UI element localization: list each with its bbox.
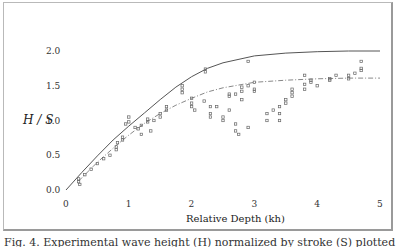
y-axis-label: H / S (22, 113, 53, 127)
data-point (266, 112, 268, 114)
data-point (181, 88, 183, 90)
fit-curve (79, 78, 380, 181)
data-point (121, 136, 123, 138)
data-point (291, 88, 293, 90)
data-point (228, 109, 230, 111)
data-point (234, 123, 236, 125)
data-point (238, 133, 240, 135)
data-point (347, 74, 349, 76)
data-point (266, 119, 268, 121)
data-point (278, 105, 280, 107)
data-point (146, 118, 148, 120)
data-point (109, 154, 111, 156)
x-tick-label: 1 (126, 199, 132, 209)
data-point (241, 98, 243, 100)
data-point (190, 105, 192, 107)
figure-caption: Fig. 4. Experimental wave height (H) nor… (4, 236, 397, 247)
y-tick-label: 2.0 (46, 46, 61, 56)
data-point (159, 116, 161, 118)
data-point (128, 116, 130, 118)
data-point (354, 72, 356, 74)
data-point (140, 133, 142, 135)
data-point (124, 123, 126, 125)
data-point (316, 85, 318, 87)
data-point (96, 162, 98, 164)
data-point (128, 121, 130, 123)
data-point (303, 88, 305, 90)
data-point (234, 93, 236, 95)
x-axis-label: Relative Depth (kh) (186, 213, 285, 224)
data-point (291, 92, 293, 94)
data-point (234, 130, 236, 132)
data-point (190, 102, 192, 104)
data-point (204, 71, 206, 73)
x-tick-label: 3 (251, 199, 257, 209)
data-point (216, 105, 218, 107)
data-point (209, 116, 211, 118)
y-tick-label: 0.0 (46, 185, 61, 195)
data-point (335, 74, 337, 76)
data-point (165, 105, 167, 107)
data-point (150, 130, 152, 132)
data-point (291, 95, 293, 97)
data-point (209, 105, 211, 107)
data-point (153, 119, 155, 121)
data-point (303, 74, 305, 76)
data-point (272, 109, 274, 111)
data-point (181, 85, 183, 87)
data-point (222, 119, 224, 121)
data-point (360, 60, 362, 62)
data-point (278, 119, 280, 121)
data-point (203, 100, 205, 102)
data-point (181, 92, 183, 94)
data-point (247, 85, 249, 87)
x-tick-label: 4 (314, 199, 320, 209)
data-point (247, 126, 249, 128)
y-tick-label: 1.5 (46, 81, 61, 91)
data-point (285, 98, 287, 100)
data-point (209, 112, 211, 114)
data-point (222, 116, 224, 118)
x-tick-label: 0 (63, 199, 69, 209)
data-point (241, 86, 243, 88)
data-point (303, 83, 305, 85)
x-axis-ticks: 012345 (63, 199, 383, 209)
x-tick-label: 2 (189, 199, 195, 209)
y-tick-label: 0.5 (46, 150, 61, 160)
data-point (285, 102, 287, 104)
data-point (278, 112, 280, 114)
x-tick-label: 5 (377, 199, 383, 209)
data-point (115, 148, 117, 150)
data-point (194, 109, 196, 111)
scatter-chart: 0.00.51.01.52.0 012345 H / S Relative De… (0, 0, 397, 247)
data-point (79, 183, 81, 185)
data-point (241, 90, 243, 92)
data-point (247, 60, 249, 62)
theory-curve (66, 51, 380, 190)
data-point (134, 126, 136, 128)
